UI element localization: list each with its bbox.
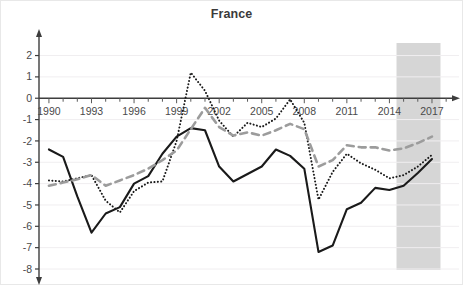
y-tick-label: -4 [23, 177, 32, 189]
x-tick-label: 1999 [165, 105, 189, 117]
y-tick-label: -8 [23, 263, 32, 275]
x-tick-label: 1996 [122, 105, 146, 117]
x-tick-label: 2017 [420, 105, 444, 117]
x-tick-label: 2005 [250, 105, 274, 117]
y-tick-label: 0 [26, 92, 32, 104]
y-axis-arrow-bottom [36, 277, 42, 285]
y-tick-label: -1 [23, 113, 32, 125]
y-tick-label: 2 [26, 49, 32, 61]
y-axis-arrow-top [36, 29, 42, 37]
y-tick-label: -3 [23, 156, 32, 168]
x-tick-label: 1993 [80, 105, 104, 117]
chart-container: France 210-1-2-3-4-5-6-7-819901993199619… [0, 0, 463, 285]
y-tick-label: -2 [23, 135, 32, 147]
x-axis-arrow-right [452, 95, 460, 101]
y-tick-label: -6 [23, 220, 32, 232]
x-tick-label: 2002 [207, 105, 231, 117]
series-line-dotted-black-series [49, 73, 432, 213]
y-tick-label: 1 [26, 70, 32, 82]
x-tick-label: 2008 [293, 105, 317, 117]
x-tick-label: 2014 [378, 105, 402, 117]
y-tick-label: -5 [23, 199, 32, 211]
line-chart-plot: 210-1-2-3-4-5-6-7-8199019931996199920022… [1, 1, 463, 285]
x-tick-label: 2011 [336, 105, 359, 117]
x-tick-label: 1990 [37, 105, 61, 117]
y-tick-label: -7 [23, 241, 32, 253]
